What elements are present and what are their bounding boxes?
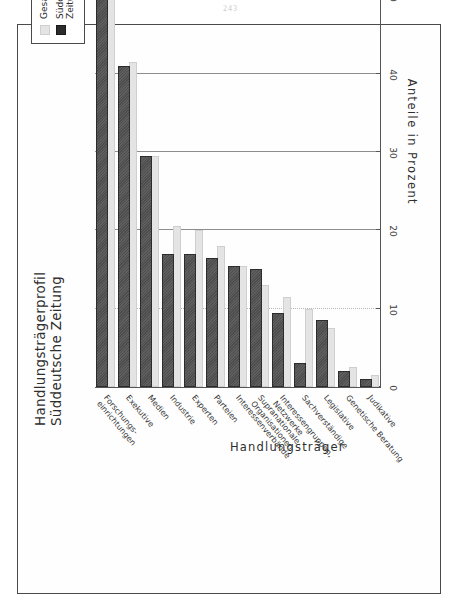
bar-gesamt: [217, 246, 225, 387]
bar-sueddeutsche-zeitung: [360, 379, 372, 387]
value-axis-title: Anteile in Prozent: [405, 79, 419, 205]
legend-swatch-sueddeutsche-zeitung: [56, 25, 66, 35]
axis-tick-10: [376, 308, 381, 309]
bar-gesamt: [305, 309, 313, 387]
bar-sueddeutsche-zeitung: [316, 320, 328, 387]
bar-gesamt: [261, 285, 269, 387]
bar-sueddeutsche-zeitung: [338, 371, 350, 387]
bar-gesamt: [151, 156, 159, 387]
bar-gesamt: [129, 62, 137, 387]
legend-swatch-gesamt: [40, 25, 50, 35]
bar-sueddeutsche-zeitung: [140, 156, 152, 387]
bar-sueddeutsche-zeitung: [162, 254, 174, 387]
gridline-40: [95, 73, 380, 74]
bar-sueddeutsche-zeitung: [250, 270, 262, 388]
axis-tick-40: [376, 73, 381, 74]
axis-tick-label-20: 20: [388, 218, 398, 244]
bar-gesamt: [195, 230, 203, 387]
bar-sueddeutsche-zeitung: [96, 0, 108, 387]
chart-title: Handlungsträgerprofil Süddeutsche Zeitun…: [33, 272, 64, 426]
bar-gesamt: [327, 328, 335, 387]
chart-legend: Gesamt Süddeutsche Zeitung: [31, 0, 85, 44]
legend-item-gesamt: Gesamt: [39, 0, 50, 35]
chart-rotation-stage: Handlungsträgerprofil Süddeutsche Zeitun…: [17, 0, 441, 448]
axis-tick-label-30: 30: [388, 140, 398, 166]
legend-item-sueddeutsche-zeitung: Süddeutsche Zeitung: [55, 0, 75, 35]
bar-sueddeutsche-zeitung: [118, 66, 130, 387]
bar-sueddeutsche-zeitung: [206, 258, 218, 387]
axis-tick-label-50: 50: [388, 0, 398, 9]
bar-gesamt: [107, 0, 115, 387]
axis-tick-label-40: 40: [388, 62, 398, 88]
axis-tick-20: [376, 229, 381, 230]
bar-gesamt: [173, 226, 181, 387]
gridline-20: [95, 229, 380, 230]
bar-sueddeutsche-zeitung: [184, 254, 196, 387]
bar-gesamt: [371, 375, 379, 387]
plot-area: [95, 0, 381, 388]
axis-tick-label-0: 0: [388, 375, 398, 401]
axis-tick-30: [376, 151, 381, 152]
bar-gesamt: [283, 297, 291, 387]
legend-label-gesamt: Gesamt: [39, 0, 49, 19]
bar-chart: Handlungsträgerprofil Süddeutsche Zeitun…: [17, 0, 441, 448]
gridline-30: [95, 151, 380, 152]
bar-sueddeutsche-zeitung: [272, 313, 284, 387]
bar-gesamt: [349, 367, 357, 387]
legend-label-sueddeutsche-zeitung: Süddeutsche Zeitung: [55, 0, 75, 19]
bar-sueddeutsche-zeitung: [228, 266, 240, 387]
axis-tick-label-10: 10: [388, 297, 398, 323]
bar-gesamt: [239, 266, 247, 387]
bar-sueddeutsche-zeitung: [294, 364, 306, 388]
